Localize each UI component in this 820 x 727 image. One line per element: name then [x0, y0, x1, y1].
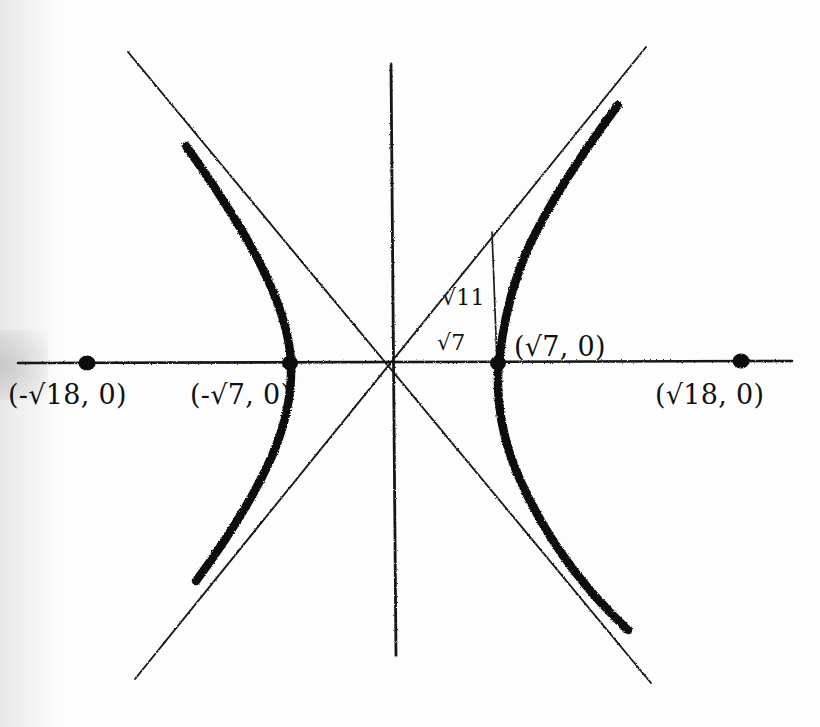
label-focus-right: (√18, 0): [655, 381, 764, 408]
label-hypotenuse: √11: [442, 287, 485, 309]
point-vertex-right: [490, 356, 506, 371]
label-vertex-right: (√7, 0): [514, 333, 606, 360]
label-focus-left: (-√18, 0): [8, 381, 127, 408]
triangle-vertical-leg: [492, 232, 497, 362]
label-vertex-left: (-√7, 0): [190, 381, 291, 408]
asymptote-negative-slope: [128, 52, 651, 683]
figure-canvas: (-√18, 0) (-√7, 0) (√7, 0) (√18, 0) √7 √…: [0, 0, 820, 727]
point-vertex-left: [282, 356, 298, 371]
point-focus-left: [79, 356, 96, 371]
label-leg-horizontal: √7: [437, 332, 466, 354]
point-focus-right: [733, 354, 750, 369]
x-axis: [18, 361, 792, 363]
hyperbola-branch-right: [498, 105, 628, 630]
hyperbola-drawing: [0, 0, 820, 727]
